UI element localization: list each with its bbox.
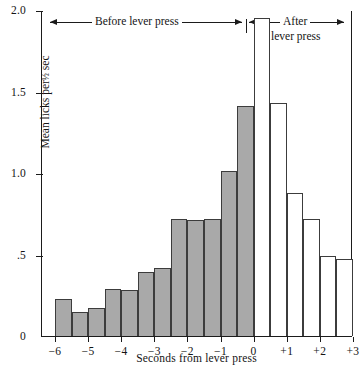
- y-axis-tick-label: 1.5: [0, 87, 26, 99]
- histogram-bar: [237, 106, 254, 336]
- x-axis-tick: [55, 337, 56, 342]
- x-axis-tick: [254, 337, 255, 342]
- plot-area: 0.51.01.52.0 −6−5−4−3−2−10+1+2+3 Before …: [41, 11, 352, 337]
- x-axis-tick-label: −3: [139, 345, 169, 357]
- histogram-bar: [336, 259, 353, 336]
- x-axis-tick-label: −5: [73, 345, 103, 357]
- before-span-label: Before lever press: [92, 15, 182, 28]
- histogram-bar: [154, 268, 171, 336]
- histogram-bar: [221, 171, 238, 336]
- y-axis-tick-label: 1.0: [0, 168, 26, 180]
- x-axis-tick: [287, 337, 288, 342]
- x-axis-tick-label: +2: [305, 345, 335, 357]
- histogram-bar: [254, 18, 271, 336]
- x-axis-tick: [221, 337, 222, 342]
- y-axis-tick: [36, 256, 43, 257]
- x-axis-tick-label: +1: [272, 345, 302, 357]
- x-axis-tick-label: 0: [239, 345, 269, 357]
- histogram-bar: [204, 219, 221, 336]
- histogram-bar: [320, 256, 337, 336]
- x-axis-tick: [320, 337, 321, 342]
- lick-rate-histogram-figure: Mean licks per½ sec Seconds from lever p…: [0, 0, 362, 370]
- x-axis-tick: [121, 337, 122, 342]
- x-axis-tick-label: −4: [106, 345, 136, 357]
- after-span-label-line2: lever press: [268, 30, 324, 43]
- x-axis-tick-label: +3: [338, 345, 362, 357]
- histogram-bar: [171, 219, 188, 336]
- y-axis-tick: [36, 93, 43, 94]
- histogram-bar: [138, 272, 155, 336]
- histogram-bar: [121, 290, 138, 336]
- lever-press-divider: [246, 19, 247, 33]
- histogram-bar: [55, 299, 72, 336]
- histogram-bar: [105, 289, 122, 336]
- histogram-bar: [88, 308, 105, 336]
- x-axis-tick: [187, 337, 188, 342]
- x-axis-tick-label: −2: [172, 345, 202, 357]
- y-axis-tick-label: 2.0: [0, 5, 26, 17]
- histogram-bar: [187, 220, 204, 336]
- y-axis-tick-label: 0: [0, 331, 26, 343]
- x-axis-tick-label: −6: [40, 345, 70, 357]
- x-axis-tick: [353, 337, 354, 342]
- before-span-arrow-left: [50, 19, 57, 25]
- x-axis-tick: [154, 337, 155, 342]
- x-axis-tick-label: −1: [206, 345, 236, 357]
- y-axis-tick-label: .5: [0, 250, 26, 262]
- x-axis-tick: [88, 337, 89, 342]
- after-span-label-line1: After: [280, 15, 310, 28]
- histogram-bar: [287, 193, 304, 336]
- histogram-bar: [72, 312, 89, 336]
- y-axis-tick: [36, 11, 43, 12]
- histogram-bar: [303, 219, 320, 336]
- before-span-arrow-right: [235, 19, 242, 25]
- after-span-arrow-right: [337, 19, 344, 25]
- histogram-bar: [270, 103, 287, 336]
- y-axis-tick: [36, 174, 43, 175]
